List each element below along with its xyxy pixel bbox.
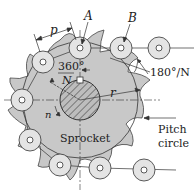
label-pitch-circle-2: circle	[158, 137, 189, 150]
roller-a	[69, 37, 91, 59]
label-pitch-circle-1: Pitch	[158, 123, 187, 136]
roller-bottom-right	[133, 159, 155, 181]
roller-upper-left	[32, 51, 54, 73]
label-angle-180: 180°/N	[150, 66, 190, 79]
label-roller-b: B	[127, 11, 137, 25]
roller-far-right	[148, 37, 170, 59]
sprocket-diagram: p A B 360° N 180°/N r n Sprocket Pitch c…	[0, 0, 194, 196]
roller-bottom-mid	[89, 157, 111, 179]
label-sprocket: Sprocket	[60, 132, 111, 145]
label-speed: n	[45, 109, 51, 120]
label-angle-360: 360°	[58, 60, 85, 73]
roller-b	[110, 37, 132, 59]
roller-lower-left	[19, 129, 41, 151]
label-pitch: p	[50, 23, 58, 37]
label-angle-360-denominator: N	[61, 74, 72, 87]
keyway	[77, 77, 83, 83]
label-roller-a: A	[83, 9, 93, 23]
roller-bottom-left	[49, 154, 71, 176]
roller-left	[11, 89, 33, 111]
